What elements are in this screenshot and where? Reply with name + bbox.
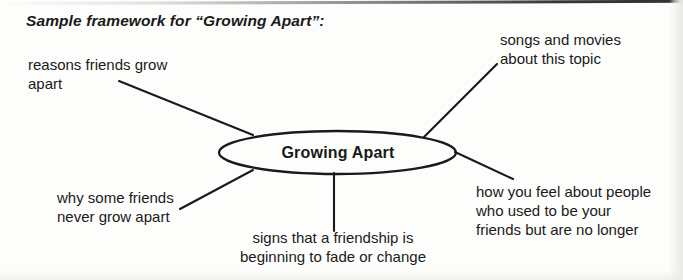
scan-artifact-bottom-edge — [0, 270, 683, 280]
branch-label-signs: signs that a friendship is beginning to … — [240, 228, 426, 266]
branch-label-songs: songs and movies about this topic — [500, 30, 621, 68]
connector-how — [455, 152, 513, 179]
branch-label-reasons: reasons friends grow apart — [28, 55, 167, 93]
branch-label-why: why some friends never grow apart — [57, 188, 174, 226]
center-node-label: Growing Apart — [219, 131, 457, 174]
connector-why — [180, 170, 253, 209]
scan-artifact-right-edge — [669, 0, 683, 280]
connector-songs — [424, 64, 497, 137]
branch-label-how: how you feel about people who used to be… — [476, 182, 651, 239]
mindmap-page: Sample framework for “Growing Apart”: Gr… — [0, 0, 683, 280]
